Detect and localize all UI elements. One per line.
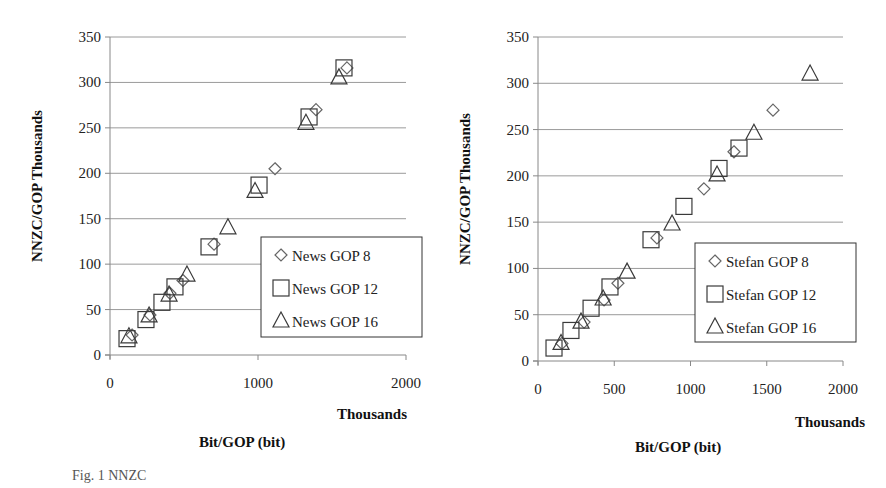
data-point-triangle bbox=[220, 219, 236, 234]
data-point-triangle bbox=[247, 182, 263, 197]
x-tick-label: 1000 bbox=[243, 375, 273, 391]
y-axis-title: NNZC/GOP Thousands bbox=[457, 113, 473, 265]
legend-label: News GOP 12 bbox=[292, 281, 378, 297]
figure-caption: Fig. 1 NNZC bbox=[72, 468, 146, 484]
legend-label: News GOP 16 bbox=[292, 314, 379, 330]
data-point-triangle bbox=[619, 263, 635, 278]
x-axis-title: Bit/GOP (bit) bbox=[199, 434, 285, 451]
data-point-square bbox=[201, 239, 217, 255]
y-tick-label: 150 bbox=[507, 214, 530, 230]
legend-label: Stefan GOP 8 bbox=[726, 254, 809, 270]
x-axis-title: Bit/GOP (bit) bbox=[635, 439, 721, 456]
data-point-diamond bbox=[698, 183, 710, 195]
y-tick-label: 200 bbox=[79, 165, 102, 181]
data-point-square bbox=[119, 331, 135, 347]
y-tick-label: 0 bbox=[94, 347, 102, 363]
data-point-triangle bbox=[298, 114, 314, 129]
legend: News GOP 8News GOP 12News GOP 16 bbox=[261, 237, 422, 337]
x-axis-unit: Thousands bbox=[337, 406, 407, 422]
y-tick-label: 300 bbox=[79, 74, 102, 90]
y-tick-label: 100 bbox=[507, 260, 530, 276]
chart-1: 050100150200250300350010002000ThousandsB… bbox=[29, 29, 422, 451]
x-tick-label: 1000 bbox=[676, 381, 706, 397]
y-tick-label: 50 bbox=[86, 302, 101, 318]
data-point-square bbox=[731, 140, 747, 156]
data-point-diamond bbox=[208, 238, 220, 250]
y-axis-title: NNZC/GOP Thousands bbox=[29, 110, 45, 262]
legend-label: Stefan GOP 12 bbox=[726, 287, 816, 303]
legend-label: Stefan GOP 16 bbox=[726, 320, 817, 336]
y-tick-label: 100 bbox=[79, 256, 102, 272]
y-tick-label: 250 bbox=[507, 122, 530, 138]
y-tick-label: 300 bbox=[507, 75, 530, 91]
data-point-diamond bbox=[767, 104, 779, 116]
data-point-triangle bbox=[802, 65, 818, 80]
legend: Stefan GOP 8Stefan GOP 12Stefan GOP 16 bbox=[695, 243, 856, 342]
data-point-diamond bbox=[341, 62, 353, 74]
x-tick-label: 500 bbox=[603, 381, 626, 397]
y-tick-label: 0 bbox=[522, 353, 530, 369]
x-tick-label: 0 bbox=[534, 381, 542, 397]
x-axis-unit: Thousands bbox=[795, 414, 865, 430]
y-tick-label: 200 bbox=[507, 168, 530, 184]
x-tick-label: 0 bbox=[106, 375, 114, 391]
data-point-square bbox=[676, 198, 692, 214]
y-tick-label: 50 bbox=[514, 307, 529, 323]
chart-2: 0501001502002503003500500100015002000Tho… bbox=[457, 29, 865, 456]
data-point-triangle bbox=[746, 124, 762, 139]
data-point-square bbox=[336, 60, 352, 76]
x-tick-label: 1500 bbox=[752, 381, 782, 397]
x-tick-label: 2000 bbox=[828, 381, 858, 397]
data-point-square bbox=[301, 109, 317, 125]
data-point-diamond bbox=[310, 104, 322, 116]
y-tick-label: 250 bbox=[79, 120, 102, 136]
x-tick-label: 2000 bbox=[391, 375, 421, 391]
data-point-square bbox=[643, 232, 659, 248]
legend-label: News GOP 8 bbox=[292, 248, 371, 264]
figure-canvas: 050100150200250300350010002000ThousandsB… bbox=[0, 0, 886, 488]
y-tick-label: 350 bbox=[507, 29, 530, 45]
y-tick-label: 150 bbox=[79, 211, 102, 227]
data-point-square bbox=[563, 322, 579, 338]
data-point-triangle bbox=[595, 290, 611, 305]
data-point-diamond bbox=[651, 232, 663, 244]
y-tick-label: 350 bbox=[79, 29, 102, 45]
